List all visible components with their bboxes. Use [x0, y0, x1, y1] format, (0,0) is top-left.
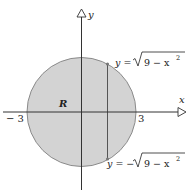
upper-curve-equation: y = 9 − x 2 — [114, 52, 185, 68]
y-axis-arrow-icon — [77, 9, 86, 17]
upper-lhs: y = — [114, 57, 131, 68]
y-axis-label: y — [87, 9, 94, 20]
region-diagram: y x − 3 3 R y = 9 − x 2 y = − 9 − x 2 — [0, 0, 190, 194]
lower-exponent: 2 — [176, 155, 180, 163]
x-axis-label: x — [179, 94, 185, 105]
upper-radicand: 9 − x — [144, 57, 170, 68]
lower-radicand: 9 − x — [144, 158, 170, 169]
lower-lhs: y = − — [106, 158, 134, 169]
upper-endpoint-dot — [106, 62, 109, 65]
region-label: R — [58, 98, 67, 109]
upper-exponent: 2 — [176, 54, 180, 62]
x-axis-arrow-icon — [178, 108, 186, 117]
tick-label-neg3: − 3 — [6, 113, 24, 124]
tick-label-3: 3 — [138, 113, 144, 124]
lower-curve-equation: y = − 9 − x 2 — [106, 153, 185, 169]
